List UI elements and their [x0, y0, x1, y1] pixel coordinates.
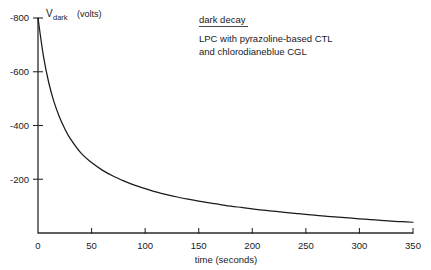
annotation-line-1: LPC with pyrazoline-based CTL — [199, 33, 333, 44]
x-tick-label: 150 — [191, 240, 207, 251]
annotation-heading: dark decay — [199, 14, 246, 25]
x-tick-label: 300 — [351, 240, 367, 251]
y-axis-title: V dark (volts) — [46, 8, 102, 22]
y-axis-title-main: V — [46, 8, 53, 19]
y-axis-title-units: (volts) — [77, 9, 102, 19]
x-tick-label: 350 — [405, 240, 421, 251]
x-tick-label: 200 — [244, 240, 260, 251]
y-tick-label: -400 — [10, 120, 29, 131]
x-tick-label: 100 — [137, 240, 153, 251]
x-tick-label: 0 — [35, 240, 40, 251]
x-axis-tick-labels: 050100150200250300350 — [35, 240, 421, 251]
annotation-block: dark decay LPC with pyrazoline-based CTL… — [199, 14, 333, 57]
dark-decay-chart-figure: -800-600-400-200 050100150200250300350 V… — [0, 0, 431, 270]
y-tick-label: -200 — [10, 174, 29, 185]
y-tick-label: -600 — [10, 66, 29, 77]
annotation-line-2: and chlorodianeblue CGL — [199, 46, 307, 57]
y-axis-title-subscript: dark — [53, 13, 68, 22]
y-tick-label: -800 — [10, 12, 29, 23]
chart-svg: -800-600-400-200 050100150200250300350 V… — [0, 0, 431, 270]
x-tick-label: 250 — [298, 240, 314, 251]
x-axis-title: time (seconds) — [195, 254, 257, 265]
x-tick-label: 50 — [86, 240, 97, 251]
y-axis-tick-labels: -800-600-400-200 — [10, 12, 29, 184]
